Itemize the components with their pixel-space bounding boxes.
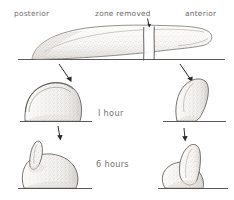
arrow-head xyxy=(182,136,187,142)
label-one-hour: I hour xyxy=(98,108,124,118)
arrow-to-posterior-fragment xyxy=(59,64,72,82)
posterior-fragment-1h xyxy=(25,83,82,121)
anterior-fragment-1h xyxy=(176,79,209,121)
arrow-to-anterior-fragment xyxy=(180,64,193,82)
arrow-to-anterior-6h xyxy=(182,128,187,142)
six-hours-row: 6 hours xyxy=(18,141,228,188)
label-zone-removed: zone removed xyxy=(95,9,151,18)
figure-canvas: posterior zone removed anterior xyxy=(0,0,234,200)
label-six-hours: 6 hours xyxy=(96,159,129,169)
removed-zone-marker xyxy=(144,19,155,61)
intact-limb-bud xyxy=(32,25,212,59)
label-posterior: posterior xyxy=(14,9,50,18)
removed-zone-gap xyxy=(144,29,155,60)
arrow-to-posterior-6h xyxy=(57,126,62,141)
posterior-fragment-6h xyxy=(22,141,78,188)
arrows-to-one-hour xyxy=(59,64,193,82)
finger-shading xyxy=(176,79,209,121)
one-hour-row: I hour xyxy=(20,79,226,122)
arrow-head xyxy=(66,77,71,83)
top-row: posterior zone removed anterior xyxy=(14,9,225,61)
anterior-fragment-6h xyxy=(162,144,203,188)
arrow-head xyxy=(57,135,62,141)
label-anterior: anterior xyxy=(185,9,217,18)
arrows-to-six-hours xyxy=(57,126,187,142)
